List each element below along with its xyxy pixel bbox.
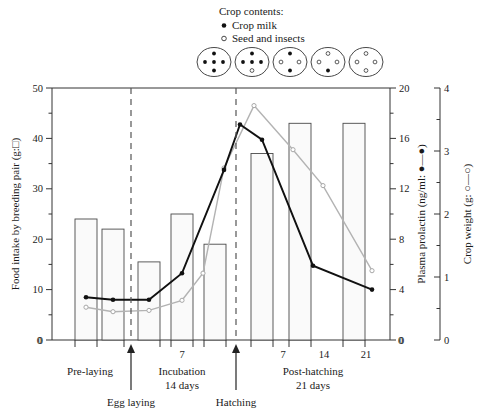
y-tick-prolactin-16: 16 — [399, 133, 410, 144]
figure-panel: Crop contents: Crop milk Seed and insect… — [0, 0, 480, 417]
y-tick-crop-2: 2 — [444, 209, 449, 220]
x-phase-label-pre-laying: Pre-laying — [67, 365, 113, 377]
x-event-label-egg-laying: Egg laying — [107, 396, 155, 408]
x-phase-sublabel-incubation: 14 days — [165, 379, 199, 391]
x-phase-label-post-hatching: Post-hatching — [283, 365, 344, 377]
x-tick-posthatch-7: 7 — [280, 349, 285, 360]
crop-weight-point — [252, 104, 256, 108]
crop-weight-point — [180, 298, 184, 302]
line-series-crop-weight — [84, 104, 374, 314]
x-origin-label-right: 0 — [398, 335, 403, 346]
x-phase-sublabel-post-hatching: 21 days — [296, 379, 330, 391]
prolactin-point — [84, 295, 89, 300]
prolactin-point — [260, 137, 265, 142]
y-tick-left-10: 10 — [33, 284, 44, 295]
y-axis-prolactin-title: Plasma prolactin (ng/ml: ●—●) — [415, 144, 428, 284]
prolactin-point — [111, 297, 116, 302]
x-axis-ticks — [75, 340, 365, 347]
y-axis-left: 0 10 20 30 40 50 Food intake by breeding… — [9, 83, 52, 346]
crop-weight-point — [147, 308, 151, 312]
x-origin-label-left: 0 — [37, 335, 42, 346]
x-tick-posthatch-21: 21 — [361, 349, 372, 360]
crop-weight-point — [370, 269, 374, 273]
x-phase-label-incubation: Incubation — [158, 365, 206, 377]
filled-dot-icon — [222, 23, 227, 28]
crop-icon-3 — [273, 48, 307, 77]
crop-icon-1 — [197, 48, 231, 77]
x-event-label-hatching: Hatching — [216, 396, 257, 408]
bar-series-food-intake — [75, 123, 365, 340]
crop-weight-point — [291, 148, 295, 152]
crop-icons-row — [197, 48, 383, 77]
bar-8 — [343, 123, 365, 340]
crop-weight-point — [321, 184, 325, 188]
crop-weight-point — [111, 310, 115, 314]
prolactin-point — [147, 297, 152, 302]
prolactin-point — [238, 122, 243, 127]
y-tick-left-50: 50 — [33, 83, 44, 94]
crop-icon-2 — [235, 48, 269, 77]
crop-weight-point — [84, 305, 88, 309]
bar-2 — [102, 229, 124, 340]
y-tick-left-30: 30 — [33, 183, 44, 194]
y-tick-crop-0: 0 — [444, 335, 449, 346]
event-arrow-egg-laying — [127, 344, 135, 390]
legend-block: Crop contents: Crop milk Seed and insect… — [219, 5, 305, 44]
y-axis-prolactin: 0 4 8 12 16 20 Plasma prolactin (ng/ml: … — [390, 83, 428, 346]
prolactin-point — [180, 271, 185, 276]
y-tick-prolactin-20: 20 — [399, 83, 410, 94]
y-tick-left-20: 20 — [33, 234, 44, 245]
crop-icon-4 — [311, 48, 345, 77]
chart-svg: Crop contents: Crop milk Seed and insect… — [0, 0, 480, 417]
y-tick-prolactin-8: 8 — [399, 234, 404, 245]
y-tick-left-40: 40 — [33, 133, 44, 144]
y-tick-crop-3: 3 — [444, 146, 449, 157]
bar-5 — [204, 244, 226, 340]
crop-icon-5 — [349, 48, 383, 77]
legend-title: Crop contents: — [219, 5, 283, 17]
prolactin-point — [311, 263, 316, 268]
bar-4 — [171, 214, 193, 340]
y-tick-crop-4: 4 — [444, 83, 450, 94]
y-tick-prolactin-12: 12 — [399, 183, 410, 194]
bar-6 — [251, 154, 273, 341]
bar-1 — [75, 219, 97, 340]
x-tick-incubation-7: 7 — [179, 349, 184, 360]
event-arrow-hatching — [232, 344, 240, 390]
prolactin-point — [370, 287, 375, 292]
y-tick-prolactin-4: 4 — [399, 284, 405, 295]
open-dot-icon — [222, 36, 227, 41]
y-axis-crop-weight-title: Crop weight (g: ○—○) — [461, 163, 474, 264]
legend-item-crop-milk: Crop milk — [232, 19, 277, 31]
legend-item-seed-insects: Seed and insects — [232, 32, 305, 44]
y-axis-crop-weight: 0 1 2 3 4 Crop weight (g: ○—○) — [434, 83, 474, 346]
x-tick-posthatch-14: 14 — [319, 349, 330, 360]
prolactin-point — [222, 168, 227, 173]
crop-weight-point — [201, 271, 205, 275]
line-series-prolactin — [84, 122, 375, 302]
y-tick-crop-1: 1 — [444, 272, 449, 283]
y-axis-left-title: Food intake by breeding pair (g:□) — [9, 137, 22, 290]
